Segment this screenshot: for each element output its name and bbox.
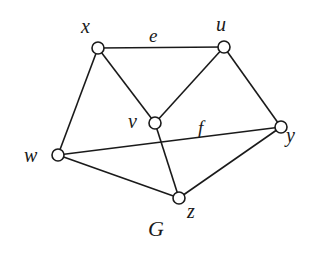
vertex-label-w: w [24,144,38,166]
vertex-w-circle [52,149,64,161]
vertex-x-circle [92,42,104,54]
edge-x-w [58,48,98,155]
vertex-label-v: v [128,110,137,132]
edge-label-f: f [198,117,206,138]
edge-x-u [98,47,224,48]
graph-name-label: G [148,216,164,241]
vertex-v-circle [149,117,161,129]
edge-u-y [224,47,281,127]
vertex-z-circle [173,192,185,204]
graph-diagram: efxuvywz G [0,0,320,259]
edge-w-z [58,155,179,198]
edges-layer [58,47,281,198]
vertex-label-z: z [186,200,195,222]
vertex-label-y: y [284,124,295,147]
edge-label-e: e [149,25,157,46]
vertex-u-circle [218,41,230,53]
vertex-label-x: x [80,15,90,37]
vertex-label-u: u [216,13,226,35]
edge-v-z [155,123,179,198]
edge-u-v [155,47,224,123]
edge-x-v [98,48,155,123]
nodes-layer [52,41,287,204]
